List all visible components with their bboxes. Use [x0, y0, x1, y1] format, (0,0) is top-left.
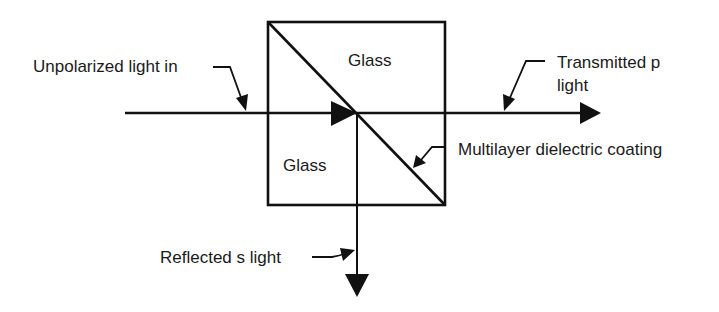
coating-leader-line — [421, 147, 445, 160]
beamsplitter-diagram: Unpolarized light in Glass Glass Transmi… — [0, 0, 719, 312]
transmitted-leader-arrowhead-icon — [503, 94, 515, 111]
input-label: Unpolarized light in — [33, 57, 178, 76]
reflected-arrowhead-icon — [345, 274, 369, 297]
reflected-leader-arrowhead-icon — [340, 248, 355, 261]
glass-top-label: Glass — [348, 51, 391, 70]
glass-bottom-label: Glass — [283, 156, 326, 175]
reflected-label: Reflected s light — [160, 248, 281, 267]
transmitted-leader-line — [509, 61, 545, 100]
input-leader-arrowhead-icon — [236, 94, 248, 111]
transmitted-label-line2: light — [557, 76, 588, 95]
incident-arrowhead-icon — [331, 101, 357, 126]
transmitted-label-line1: Transmitted p — [557, 53, 660, 72]
coating-label: Multilayer dielectric coating — [458, 140, 662, 159]
transmitted-arrowhead-icon — [580, 102, 601, 124]
reflected-leader-line — [312, 254, 344, 257]
